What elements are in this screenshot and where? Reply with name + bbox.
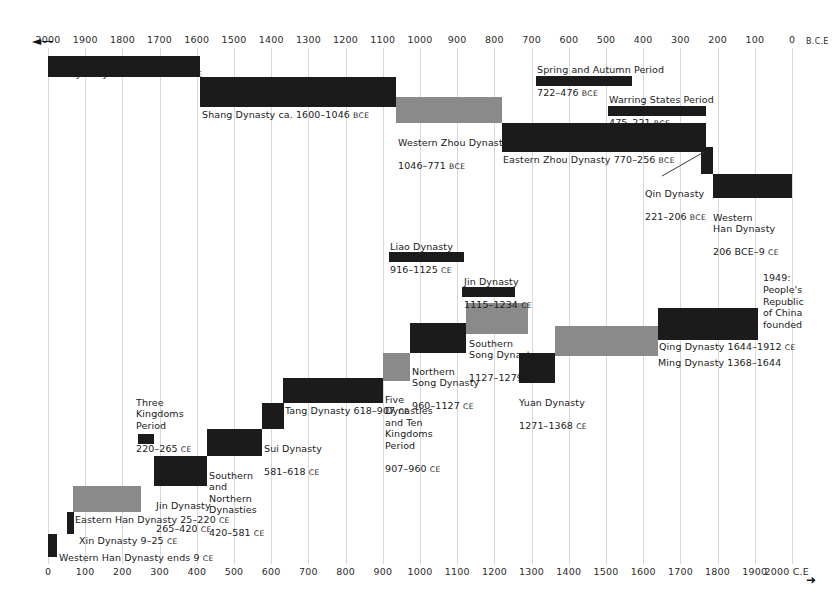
label-warring-states-period: Warring States Period 475–221 BCE (609, 82, 714, 141)
bottom-axis-tick: 1300 (519, 566, 544, 577)
top-axis-tick: 800 (485, 34, 504, 45)
bottom-axis-tick: 1800 (705, 566, 730, 577)
bar-northern-song-dynasty[interactable] (410, 323, 466, 353)
label-three-kingdoms-period: Three Kingdoms Period 220–265 CE (136, 385, 192, 467)
bar-eastern-han-dynasty[interactable] (73, 486, 141, 512)
label-qin-dynasty: Qin Dynasty 221–206 BCE (645, 176, 706, 235)
bottom-axis-tick: 1600 (631, 566, 656, 577)
label-southern-northern-dynasties: Southern and Northern Dynasties 420–581 … (209, 458, 265, 551)
dynasty-timeline-chart: 2000190018001700160015001400130012001100… (0, 0, 838, 603)
label-qing-dynasty: Qing Dynasty 1644–1912 CE (659, 341, 796, 354)
bottom-axis-tick: 0 (45, 566, 51, 577)
bottom-axis-tick: 2000 C.E (764, 566, 808, 577)
bar-shang-dynasty[interactable] (200, 77, 396, 107)
top-axis-tick: 1000 (408, 34, 433, 45)
top-axis-tick: 1600 (184, 34, 209, 45)
gridline (718, 48, 719, 564)
top-axis-tick: 100 (745, 34, 764, 45)
top-axis-tick: 1700 (147, 34, 172, 45)
gridline (346, 48, 347, 564)
top-axis-tick: 1300 (296, 34, 321, 45)
top-axis-tick: 700 (522, 34, 541, 45)
label-shang-dynasty: Shang Dynasty ca. 1600–1046 BCE (202, 109, 369, 122)
gridline (160, 48, 161, 564)
bottom-axis-tick: 200 (113, 566, 132, 577)
label-eastern-han-dynasty: Eastern Han Dynasty 25–220 CE (75, 514, 230, 527)
bar-western-zhou-dynasty[interactable] (396, 97, 502, 123)
bar-five-dynasties-period[interactable] (383, 353, 410, 381)
bottom-axis-tick: 100 (76, 566, 95, 577)
label-five-dynasties-period: Five Dynasties and Ten Kingdoms Period 9… (385, 382, 441, 487)
top-axis-tick: 900 (448, 34, 467, 45)
gridline (755, 48, 756, 564)
left-arrow-icon: ◄— (32, 35, 53, 47)
gridline (48, 48, 49, 564)
bar-tang-dynasty[interactable] (283, 378, 383, 403)
label-yuan-dynasty: Yuan Dynasty 1271–1368 CE (519, 385, 587, 444)
label-eastern-zhou-dynasty: Eastern Zhou Dynasty 770–256 BCE (503, 154, 675, 167)
label-jin-jurchen-dynasty: Jin Dynasty 1115–1234 CE (464, 264, 532, 323)
label-western-zhou-dynasty: Western Zhou Dynasty 1046–771 BCE (398, 125, 508, 184)
label-liao-dynasty: Liao Dynasty 916–1125 CE (390, 229, 453, 288)
gridline (383, 48, 384, 564)
bar-southern-northern-dyn[interactable] (207, 429, 262, 456)
bottom-axis-tick: 400 (187, 566, 206, 577)
top-axis-era-label: B.C.E (806, 37, 829, 46)
top-axis-tick: 500 (597, 34, 616, 45)
top-axis-tick: 1800 (110, 34, 135, 45)
bottom-axis-tick: 1200 (482, 566, 507, 577)
bottom-axis-tick: 1100 (445, 566, 470, 577)
label-xin-dynasty: Xin Dynasty 9–25 CE (79, 535, 178, 548)
bottom-axis-tick: 600 (262, 566, 281, 577)
top-axis-tick: 1200 (333, 34, 358, 45)
bar-qing-dynasty[interactable] (658, 308, 758, 340)
label-western-han-ends: Western Han Dynasty ends 9 CE (59, 552, 214, 565)
label-tang-dynasty: Tang Dynasty 618–907 CE (285, 405, 409, 418)
bottom-axis-tick: 1500 (594, 566, 619, 577)
bottom-axis-tick: 1700 (668, 566, 693, 577)
top-axis-tick: 400 (634, 34, 653, 45)
top-axis-tick: 1500 (222, 34, 247, 45)
top-axis-tick: 1900 (73, 34, 98, 45)
gridline (197, 48, 198, 564)
right-arrow-icon: ➜ (806, 574, 816, 586)
top-axis-tick: 200 (708, 34, 727, 45)
label-xia-dynasty: Xia Dynasty ca. 2100–1600 BCE (50, 68, 202, 81)
top-axis-tick: 300 (671, 34, 690, 45)
bottom-axis-tick: 1000 (408, 566, 433, 577)
qin-leader-line (660, 150, 710, 178)
bar-western-han-ends[interactable] (48, 534, 57, 557)
bottom-axis-tick: 500 (225, 566, 244, 577)
label-ming-dynasty: Ming Dynasty 1368–1644 (658, 357, 781, 369)
top-axis-tick: 1400 (259, 34, 284, 45)
bottom-axis-tick: 900 (373, 566, 392, 577)
bar-sui-dynasty[interactable] (262, 403, 284, 429)
top-axis-tick: 0 (789, 34, 795, 45)
bottom-axis-tick: 800 (336, 566, 355, 577)
label-sui-dynasty: Sui Dynasty 581–618 CE (264, 431, 322, 490)
bar-western-han-dynasty[interactable] (713, 174, 792, 198)
bottom-axis-tick: 700 (299, 566, 318, 577)
top-axis-tick: 1100 (370, 34, 395, 45)
bottom-axis-tick: 1400 (556, 566, 581, 577)
bottom-axis-tick: 300 (150, 566, 169, 577)
top-axis-tick: 600 (559, 34, 578, 45)
bar-xin-dynasty[interactable] (67, 512, 74, 534)
annotation-prc-founded: 1949: People's Republic of China founded (763, 272, 804, 331)
label-western-han-dynasty: Western Han Dynasty 206 BCE–9 CE (713, 200, 779, 270)
bar-ming-dynasty[interactable] (555, 326, 658, 356)
